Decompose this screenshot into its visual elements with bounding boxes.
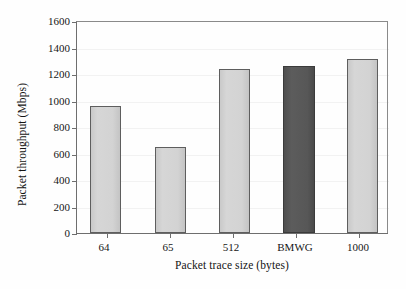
plot-area (76, 21, 388, 233)
x-tick-label-512: 512 (196, 241, 266, 253)
y-tick-mark-200 (72, 208, 77, 209)
y-tick-label-1400: 1400 (34, 43, 70, 54)
y-tick-label-0: 0 (34, 228, 70, 239)
x-tick-mark-4 (296, 233, 297, 238)
x-tick-mark-2 (170, 233, 171, 238)
x-tick-mark-1 (107, 233, 108, 238)
gridline-1400 (77, 49, 389, 50)
y-tick-mark-1200 (72, 75, 77, 76)
y-tick-label-1200: 1200 (34, 69, 70, 80)
x-tick-mark-5 (359, 233, 360, 238)
x-tick-label-bmwg: BMWG (260, 241, 330, 253)
x-tick-label-1000: 1000 (323, 241, 393, 253)
y-tick-label-400: 400 (34, 175, 70, 186)
x-axis-title: Packet trace size (bytes) (76, 259, 388, 271)
x-tick-mark-3 (233, 233, 234, 238)
y-tick-mark-1400 (72, 49, 77, 50)
bar-chart-figure: Packet throughput (Mbps) 0 200 400 600 8… (0, 0, 406, 289)
x-tick-label-64: 64 (69, 241, 139, 253)
y-tick-label-1000: 1000 (34, 96, 70, 107)
y-tick-label-600: 600 (34, 149, 70, 160)
y-tick-mark-1600 (72, 22, 77, 23)
y-tick-label-1600: 1600 (34, 16, 70, 27)
y-tick-mark-1000 (72, 102, 77, 103)
x-tick-label-65: 65 (133, 241, 203, 253)
bar-65[interactable] (155, 147, 186, 233)
bar-bmwg[interactable] (283, 66, 315, 233)
bar-512[interactable] (219, 69, 250, 233)
right-axis-line (387, 21, 388, 233)
bar-1000[interactable] (347, 59, 378, 233)
y-axis-title-text: Packet throughput (Mbps) (16, 83, 28, 206)
y-tick-mark-400 (72, 181, 77, 182)
y-tick-mark-800 (72, 128, 77, 129)
y-tick-label-200: 200 (34, 202, 70, 213)
x-axis-line (76, 233, 388, 234)
y-tick-label-800: 800 (34, 122, 70, 133)
bar-64[interactable] (90, 106, 121, 233)
y-tick-mark-600 (72, 155, 77, 156)
